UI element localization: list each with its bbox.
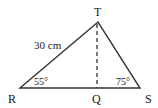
angle-label-s: 75° [116, 76, 130, 87]
angle-label-r: 55° [34, 76, 48, 87]
vertex-label-s: S [145, 92, 152, 106]
side-label-rt: 30 cm [34, 39, 62, 51]
vertex-label-t: T [94, 5, 102, 19]
vertex-label-r: R [8, 92, 16, 106]
vertex-label-q: Q [92, 92, 101, 106]
triangle-diagram: T R Q S 30 cm 55° 75° [0, 0, 158, 108]
